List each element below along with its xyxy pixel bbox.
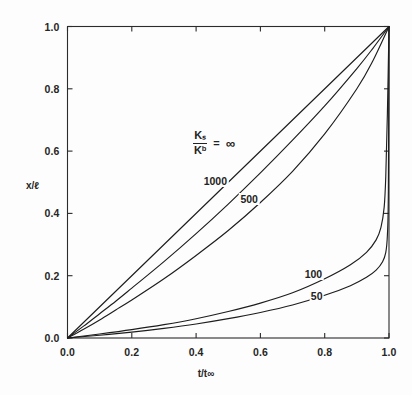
ratio-fraction: Kₛ Kᵇ	[193, 130, 207, 156]
y-tick-label-5: 1.0	[26, 21, 60, 33]
x-tick-label-5: 1.0	[382, 346, 397, 358]
x-tick-label-1: 0.2	[124, 346, 139, 358]
y-tick-label-2: 0.4	[26, 207, 60, 219]
curve-label-1000: 1000	[202, 175, 228, 187]
chart-canvas	[0, 0, 412, 395]
x-axis-title: t/t∞	[198, 368, 215, 379]
x-tick-label-2: 0.4	[189, 346, 204, 358]
curve-label-100: 100	[303, 268, 324, 280]
ratio-numerator: Kₛ	[193, 130, 207, 143]
ratio-denominator: Kᵇ	[193, 144, 207, 157]
infinity-symbol: ∞	[226, 137, 235, 150]
y-axis-title: x/ℓ	[26, 180, 39, 191]
y-tick-label-3: 0.6	[26, 145, 60, 157]
x-axis-title-text: t/t∞	[198, 368, 215, 379]
equals-sign: =	[212, 137, 220, 149]
chart-page: 0.00.20.40.60.81.0 0.00.20.40.60.81.0 x/…	[0, 0, 412, 395]
y-axis-title-text: x/ℓ	[26, 180, 39, 191]
y-tick-label-4: 0.8	[26, 83, 60, 95]
y-tick-label-0: 0.0	[26, 332, 60, 344]
curve-label-50: 50	[309, 290, 324, 302]
curve-label-500: 500	[239, 193, 260, 205]
x-tick-label-4: 0.8	[317, 346, 332, 358]
y-tick-label-1: 0.2	[26, 270, 60, 282]
x-tick-label-3: 0.6	[253, 346, 268, 358]
legend-ratio-annotation: Kₛ Kᵇ = ∞	[193, 130, 235, 156]
x-tick-label-0: 0.0	[60, 346, 75, 358]
